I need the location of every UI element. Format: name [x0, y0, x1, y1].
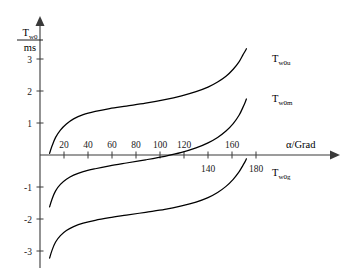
x-tick-label: 160: [225, 140, 240, 150]
chart-figure: 20406080100120140160180 321-1-2-3 Tw0uTw…: [0, 0, 351, 276]
curve-paths: [50, 49, 247, 258]
curve-labels: Tw0uTw0mTw0g: [272, 53, 293, 181]
curve-label-sub: w0g: [278, 173, 291, 181]
svg-text:Tw0: Tw0: [23, 27, 38, 41]
y-tick-label: 1: [27, 119, 32, 129]
y-tick-label: 2: [27, 87, 32, 97]
curve-label-T_w0u: Tw0u: [272, 53, 291, 67]
chart-svg: 20406080100120140160180 321-1-2-3 Tw0uTw…: [0, 0, 351, 276]
curve-label-sub: w0u: [278, 59, 291, 67]
y-tick-labels: 321-1-2-3: [24, 55, 32, 257]
y-tick-label: -2: [24, 215, 32, 225]
curve-label-sub: w0m: [278, 99, 293, 107]
x-tick-label: 60: [107, 140, 117, 150]
x-tick-label: 180: [249, 164, 264, 174]
y-axis-title: Tw0 ms: [17, 27, 43, 53]
x-tick-label: 40: [83, 140, 93, 150]
y-tick-label: -3: [24, 247, 32, 257]
curve-label-T_w0g: Tw0g: [272, 167, 291, 181]
x-tick-label: 100: [153, 140, 168, 150]
x-axis-arrow-icon: [330, 151, 340, 160]
y-tick-label: -1: [24, 183, 32, 193]
x-axis-title: α/Grad: [286, 139, 316, 150]
x-tick-label: 120: [177, 140, 192, 150]
y-axis-arrow-icon: [36, 16, 45, 26]
curve-T_w0g: [50, 159, 247, 258]
curve-T_w0m: [50, 99, 247, 207]
curve-label-T_w0m: Tw0m: [272, 93, 293, 107]
y-axis-title-denominator: ms: [24, 42, 36, 53]
x-tick-label: 20: [59, 140, 69, 150]
x-tick-label: 140: [201, 164, 216, 174]
y-tick-label: 3: [27, 55, 32, 65]
x-tick-label: 80: [131, 140, 141, 150]
